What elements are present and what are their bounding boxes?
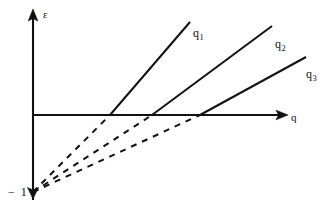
curve-label-q1-base: q — [193, 26, 199, 40]
ray-q3-solid-segment — [200, 57, 306, 115]
curve-label-q3-base: q — [306, 67, 312, 81]
y-axis-label: ε — [43, 9, 48, 20]
ray-q1-solid-segment — [110, 22, 190, 115]
x-axis-label: q — [291, 112, 297, 123]
curve-label-q3: q3 — [306, 68, 316, 80]
curve-label-q2-base: q — [275, 37, 281, 51]
curve-label-q1: q1 — [193, 27, 203, 39]
curve-label-q3-subscript: 3 — [313, 73, 317, 83]
figure-canvas: ε q − 1 q1 q2 q3 — [0, 0, 328, 214]
plot-area — [0, 0, 328, 214]
curve-label-q2-subscript: 2 — [282, 43, 286, 53]
ray-q1-dashed-segment — [33, 115, 110, 192]
y-axis-tick-label-minus-one: − 1 — [8, 186, 28, 198]
ray-q2-solid-segment — [152, 26, 272, 115]
ray-q3-dashed-segment — [33, 115, 200, 192]
curve-label-q1-subscript: 1 — [200, 32, 204, 42]
ray-q2-dashed-segment — [33, 115, 152, 192]
curve-label-q2: q2 — [275, 38, 285, 50]
